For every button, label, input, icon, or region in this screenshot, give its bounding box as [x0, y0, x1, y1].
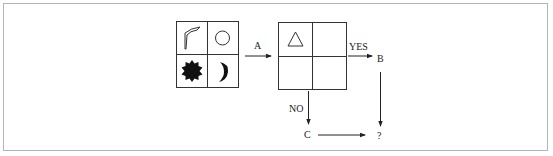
node-c: C	[304, 129, 311, 140]
flow-diagram: A YES B NO C ?	[0, 0, 553, 156]
target-grid	[279, 23, 347, 90]
arrow-a: A	[245, 40, 271, 56]
result-node: ?	[377, 130, 382, 141]
yes-arrow: YES	[348, 41, 372, 56]
node-b: B	[377, 53, 384, 64]
yes-label: YES	[349, 41, 368, 52]
no-arrow: NO	[289, 91, 309, 124]
arrow-a-label: A	[254, 40, 262, 51]
no-label: NO	[289, 103, 303, 114]
source-grid	[177, 22, 239, 88]
